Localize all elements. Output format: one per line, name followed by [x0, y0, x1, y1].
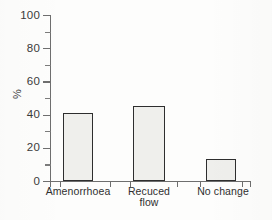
y-tick-major-100	[43, 15, 51, 16]
x-label-amenorrhoea: Amenorrhoea	[41, 186, 115, 197]
y-tick-major-60	[43, 81, 51, 82]
y-tick-minor-30	[45, 131, 51, 132]
y-tick-label-20: 20	[6, 142, 40, 154]
y-axis-title: %	[11, 89, 23, 99]
bar-recuced-flow	[133, 106, 165, 181]
y-tick-major-80	[43, 48, 51, 49]
y-tick-minor-70	[45, 65, 51, 66]
bar-chart-figure: % 0 20 40 60 80 100 Amenorrhoea Recuced …	[0, 0, 272, 220]
x-label-recuced-flow-line-2: flow	[139, 196, 158, 208]
x-label-recuced-flow: Recuced flow	[120, 186, 178, 208]
y-tick-minor-10	[45, 164, 51, 165]
y-tick-label-0: 0	[6, 176, 40, 188]
y-tick-major-40	[43, 115, 51, 116]
bar-no-change	[206, 159, 236, 181]
x-axis-line	[50, 181, 251, 182]
x-label-no-change-line-1: No change	[197, 185, 249, 197]
bar-amenorrhoea	[63, 113, 93, 181]
y-tick-label-80: 80	[6, 43, 40, 55]
y-tick-minor-90	[45, 32, 51, 33]
y-tick-major-20	[43, 148, 51, 149]
y-tick-label-60: 60	[6, 76, 40, 88]
y-tick-label-100: 100	[6, 10, 40, 22]
x-label-amenorrhoea-line-1: Amenorrhoea	[46, 185, 111, 197]
x-label-no-change: No change	[192, 186, 254, 197]
y-tick-label-40: 40	[6, 109, 40, 121]
y-tick-minor-50	[45, 98, 51, 99]
